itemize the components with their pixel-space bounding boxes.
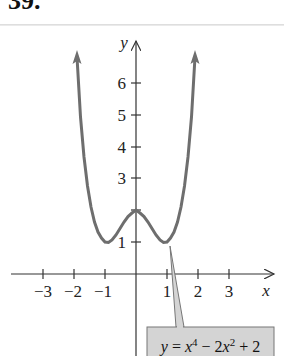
eq-x: x	[223, 338, 230, 355]
eq-y: y	[161, 338, 168, 355]
x-tick-label: −1	[94, 282, 112, 301]
x-tick-label: 1	[163, 282, 172, 301]
equation-label: y = x4 − 2x2 + 2	[147, 327, 274, 356]
x-tick-label: 3	[225, 282, 234, 301]
y-tick-label: 3	[118, 169, 127, 188]
eq-mid: − 2	[198, 338, 223, 355]
x-tick-label: 2	[194, 282, 203, 301]
eq-end: + 2	[235, 338, 260, 355]
x-axis-label: x	[261, 281, 270, 300]
y-tick-label: 1	[118, 233, 127, 252]
eq-equals: =	[168, 338, 185, 355]
x-tick-label: −3	[34, 282, 52, 301]
callout-pointer	[170, 246, 184, 327]
y-tick-label: 6	[118, 74, 127, 93]
function-graph: −3 −2 −1 1 2 3 1 3 4 5 6 x y	[0, 0, 284, 356]
x-tick-label: −2	[64, 282, 82, 301]
y-tick-label: 5	[118, 106, 127, 125]
y-tick-label: 4	[118, 138, 127, 157]
y-axis-label: y	[118, 33, 128, 52]
eq-x: x	[185, 338, 192, 355]
